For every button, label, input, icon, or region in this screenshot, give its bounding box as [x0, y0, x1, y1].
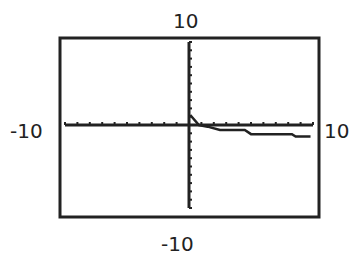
- graph-plot: [0, 0, 357, 255]
- axes: [65, 42, 313, 208]
